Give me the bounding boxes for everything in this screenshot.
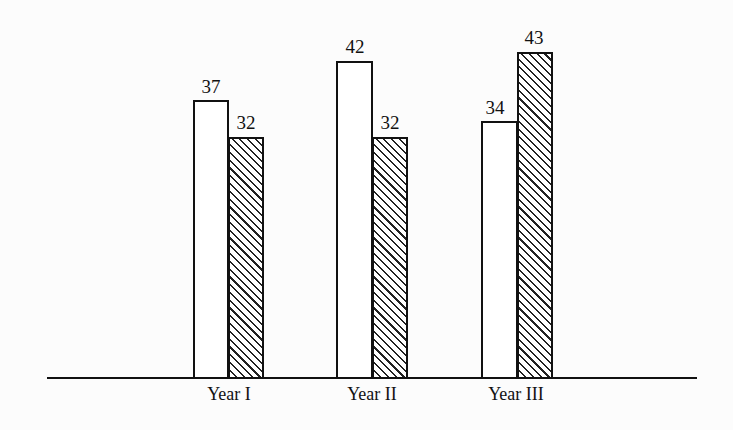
x-axis [47, 377, 697, 379]
bar-year1-plain [193, 100, 229, 377]
bar-chart: 37 32 42 32 34 43 Year I Year II Year II… [0, 0, 733, 430]
bar-year1-hatched [228, 137, 264, 377]
bar-year3-plain [481, 121, 518, 377]
bar-year2-plain [336, 61, 373, 377]
bar-year2-hatched [372, 137, 408, 377]
category-label: Year II [322, 384, 422, 405]
category-label: Year III [466, 384, 566, 405]
value-label: 32 [370, 112, 410, 134]
category-label: Year I [179, 384, 279, 405]
value-label: 37 [191, 76, 231, 98]
value-label: 32 [226, 112, 266, 134]
value-label: 34 [475, 97, 515, 119]
value-label: 43 [514, 27, 554, 49]
bar-year3-hatched [517, 52, 553, 377]
value-label: 42 [335, 36, 375, 58]
